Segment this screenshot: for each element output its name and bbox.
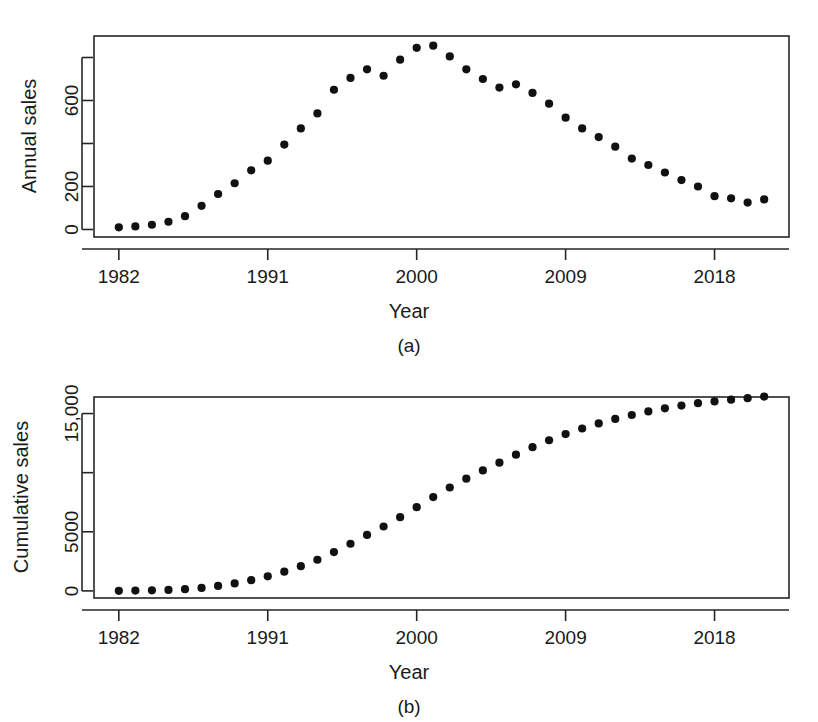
data-point	[429, 493, 437, 501]
data-point	[694, 399, 702, 407]
y-axis-title-a: Annual sales	[18, 79, 40, 194]
data-point	[462, 65, 470, 73]
data-points-a	[115, 42, 769, 232]
data-point	[462, 475, 470, 483]
data-point	[131, 587, 139, 595]
data-point	[628, 411, 636, 419]
y-tick-labels-b: 0500015,000	[62, 384, 83, 596]
data-point	[446, 483, 454, 491]
data-point	[727, 194, 735, 202]
data-point	[131, 222, 139, 230]
data-point	[379, 72, 387, 80]
y-axis-a	[82, 57, 93, 229]
x-tick-label: 2000	[396, 266, 438, 287]
data-point	[578, 424, 586, 432]
data-point	[528, 89, 536, 97]
x-tick-label: 2018	[693, 627, 735, 648]
data-point	[479, 466, 487, 474]
data-point	[694, 182, 702, 190]
x-tick-label: 2009	[544, 266, 586, 287]
data-point	[495, 83, 503, 91]
data-point	[479, 75, 487, 83]
x-tick-label: 1991	[247, 266, 289, 287]
y-axis-b	[82, 414, 93, 591]
data-point	[744, 394, 752, 402]
data-point	[297, 562, 305, 570]
data-point	[396, 56, 404, 64]
data-point	[164, 586, 172, 594]
panel-label-a: (a)	[397, 335, 420, 356]
data-point	[512, 80, 520, 88]
data-point	[313, 556, 321, 564]
data-point	[396, 513, 404, 521]
data-point	[710, 192, 718, 200]
data-point	[346, 540, 354, 548]
x-tick-label: 1982	[98, 627, 140, 648]
data-point	[644, 161, 652, 169]
data-point	[181, 212, 189, 220]
x-tick-labels-b: 19821991200020092018	[98, 627, 736, 648]
cumulative-sales-plot: 19821991200020092018 0500015,000 Year Cu…	[0, 361, 818, 722]
data-point	[413, 503, 421, 511]
data-point	[528, 443, 536, 451]
data-point	[148, 221, 156, 229]
data-point	[214, 582, 222, 590]
chart-panel-a: 19821991200020092018 0200600 Year Annual…	[0, 0, 818, 361]
y-axis-title-b: Cumulative sales	[10, 421, 32, 573]
data-point	[760, 195, 768, 203]
x-axis-title-a: Year	[389, 300, 430, 322]
data-point	[330, 86, 338, 94]
panel-label-b: (b)	[397, 696, 420, 717]
data-point	[247, 166, 255, 174]
data-points-b	[115, 392, 769, 594]
data-point	[231, 579, 239, 587]
data-point	[429, 42, 437, 50]
data-point	[330, 548, 338, 556]
x-axis-b	[82, 610, 789, 621]
data-point	[495, 459, 503, 467]
x-axis-a	[82, 249, 789, 260]
x-tick-label: 1982	[98, 266, 140, 287]
data-point	[611, 143, 619, 151]
data-point	[280, 140, 288, 148]
data-point	[710, 397, 718, 405]
data-point	[545, 100, 553, 108]
data-point	[214, 190, 222, 198]
data-point	[280, 568, 288, 576]
data-point	[346, 74, 354, 82]
data-point	[744, 199, 752, 207]
y-tick-label: 0	[62, 586, 83, 597]
data-point	[231, 179, 239, 187]
data-point	[677, 401, 685, 409]
y-tick-label: 600	[62, 85, 83, 117]
x-tick-label: 1991	[247, 627, 289, 648]
figure-container: 19821991200020092018 0200600 Year Annual…	[0, 0, 818, 722]
y-tick-label: 5000	[62, 511, 83, 553]
data-point	[446, 52, 454, 60]
data-point	[677, 176, 685, 184]
data-point	[661, 168, 669, 176]
data-point	[115, 587, 123, 595]
data-point	[363, 65, 371, 73]
y-tick-label: 200	[62, 171, 83, 203]
data-point	[595, 133, 603, 141]
data-point	[197, 202, 205, 210]
plot-frame-b	[94, 397, 789, 598]
data-point	[595, 419, 603, 427]
data-point	[628, 154, 636, 162]
x-tick-labels-a: 19821991200020092018	[98, 266, 736, 287]
data-point	[264, 157, 272, 165]
data-point	[562, 430, 570, 438]
data-point	[545, 436, 553, 444]
x-axis-title-b: Year	[389, 661, 430, 683]
x-tick-label: 2018	[693, 266, 735, 287]
data-point	[562, 114, 570, 122]
x-tick-label: 2000	[396, 627, 438, 648]
data-point	[727, 396, 735, 404]
y-tick-label: 15,000	[62, 384, 83, 442]
data-point	[148, 586, 156, 594]
x-tick-label: 2009	[544, 627, 586, 648]
data-point	[197, 584, 205, 592]
data-point	[264, 572, 272, 580]
data-point	[247, 576, 255, 584]
